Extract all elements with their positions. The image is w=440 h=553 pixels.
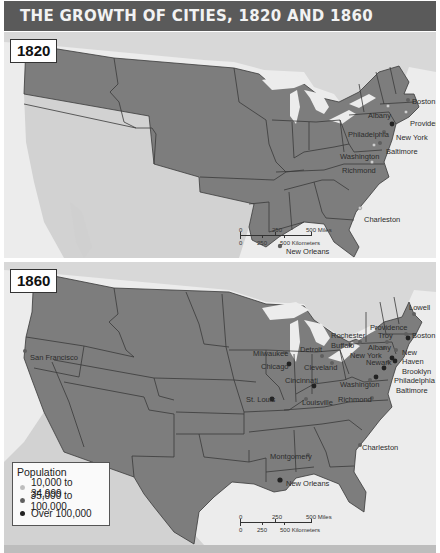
city-label-charleston: Charleston	[362, 444, 398, 452]
legend-item-large: Over 100,000	[17, 507, 105, 520]
city-label-charleston: Charleston	[364, 216, 400, 224]
city-label-new-haven: New Haven	[402, 348, 424, 366]
legend-item-medium: 35,000 to 100,000	[17, 494, 105, 507]
city-label-philadelphia: Philadelphia	[394, 377, 435, 385]
city-label-st-louis: St. Louis	[246, 396, 275, 404]
map-title: THE GROWTH OF CITIES, 1820 AND 1860	[4, 1, 436, 31]
city-label-philadelphia: Philadelphia	[348, 131, 389, 139]
city-label-troy: Troy	[378, 332, 393, 340]
population-legend: Population 10,000 to 34,999 35,000 to 10…	[12, 462, 110, 526]
city-label-cleveland: Cleveland	[304, 364, 337, 372]
year-label-1820: 1820	[10, 39, 57, 63]
city-label-richmond: Richmond	[338, 396, 372, 404]
large-city-dot-icon	[20, 511, 25, 516]
city-label-washington: Washington	[340, 381, 379, 389]
city-label-new-orleans: New Orleans	[286, 480, 329, 488]
city-label-new-york: New York	[396, 134, 428, 142]
city-label-montgomery: Montgomery	[270, 453, 312, 461]
small-city-dot-icon	[20, 485, 25, 490]
city-label-new-orleans: New Orleans	[286, 248, 329, 256]
city-label-milwaukee: Milwaukee	[253, 350, 288, 358]
city-label-brooklyn: Brooklyn	[402, 368, 431, 376]
city-label-boston: Boston	[412, 332, 435, 340]
city-label-richmond: Richmond	[342, 167, 376, 175]
city-label-louisville: Louisville	[302, 399, 333, 407]
map-panel-1820: 1820 Boston Albany Providence New York P…	[4, 32, 436, 258]
city-label-lowell: Lowell	[409, 304, 430, 312]
city-label-rochester: Rochester	[331, 332, 365, 340]
city-label-providence: Providence	[410, 120, 436, 128]
city-label-newark: Newark	[366, 359, 391, 367]
city-label-washington: Washington	[340, 153, 379, 161]
medium-city-dot-icon	[20, 498, 25, 503]
city-label-chicago: Chicago	[261, 363, 289, 371]
city-label-buffalo: Buffalo	[331, 342, 354, 350]
city-label-albany: Albany	[368, 112, 391, 120]
city-label-boston: Boston	[412, 98, 435, 106]
city-label-cincinnati: Cincinnati	[285, 377, 318, 385]
bottom-band	[4, 545, 436, 553]
city-label-detroit: Detroit	[300, 346, 322, 354]
city-label-baltimore: Baltimore	[386, 148, 418, 156]
map-panel-1860: 1860 San Francisco Milwaukee Chicago Det…	[4, 262, 436, 545]
map-1820-graphic	[4, 32, 436, 258]
city-label-baltimore: Baltimore	[396, 387, 428, 395]
year-label-1860: 1860	[10, 269, 57, 293]
city-label-san-francisco: San Francisco	[30, 354, 78, 362]
